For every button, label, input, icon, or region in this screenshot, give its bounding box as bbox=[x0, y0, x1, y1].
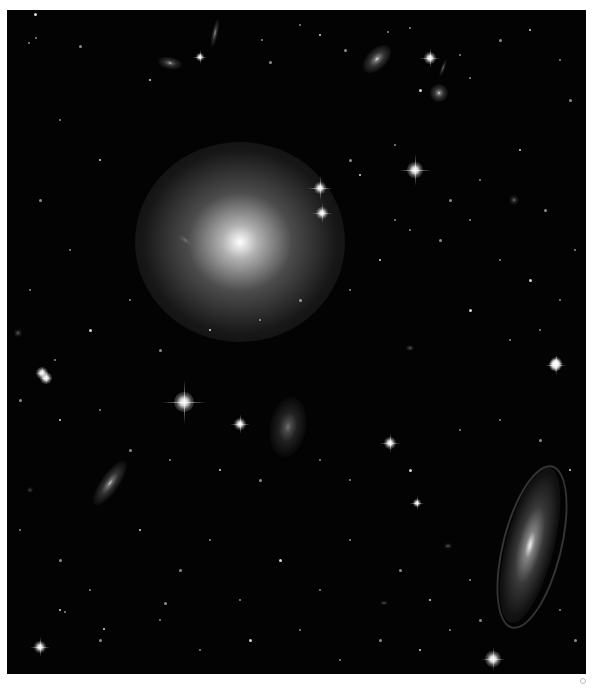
faint-star bbox=[499, 419, 501, 421]
faint-star bbox=[299, 629, 301, 631]
faint-star bbox=[339, 659, 341, 661]
galaxy-irregular-center bbox=[265, 394, 311, 459]
faint-star bbox=[129, 449, 132, 452]
faint-star bbox=[469, 309, 472, 312]
faint-star bbox=[509, 339, 511, 341]
faint-star bbox=[19, 399, 22, 402]
faint-star bbox=[89, 329, 92, 332]
faint-star bbox=[209, 539, 211, 541]
bright-star bbox=[485, 651, 501, 667]
faint-star bbox=[529, 29, 531, 31]
faint-star bbox=[349, 289, 351, 291]
faint-star bbox=[299, 299, 302, 302]
faint-star bbox=[419, 89, 422, 92]
faint-star bbox=[499, 39, 502, 42]
faint-star bbox=[59, 559, 62, 562]
bright-star bbox=[316, 207, 328, 219]
corner-circle-icon bbox=[580, 678, 586, 684]
galaxy-small-galaxy-right bbox=[509, 195, 519, 205]
faint-star bbox=[394, 219, 396, 221]
diffraction-spike bbox=[556, 355, 557, 371]
bright-star bbox=[36, 367, 48, 379]
bright-star bbox=[174, 392, 194, 412]
diffraction-spike bbox=[320, 176, 321, 200]
diffraction-spike bbox=[481, 659, 505, 660]
diffraction-spike bbox=[30, 647, 50, 648]
faint-star bbox=[349, 539, 351, 541]
faint-star bbox=[319, 34, 321, 36]
faint-star bbox=[569, 99, 572, 102]
bright-star bbox=[314, 182, 326, 194]
faint-star bbox=[129, 299, 131, 301]
galaxy-spiral-lower-right bbox=[487, 462, 572, 629]
faint-star bbox=[439, 239, 442, 242]
diffraction-spike bbox=[399, 170, 431, 171]
diffraction-spike bbox=[417, 496, 418, 510]
faint-star bbox=[379, 259, 381, 261]
diffraction-spike bbox=[415, 154, 416, 186]
bright-star bbox=[424, 52, 436, 64]
faint-star bbox=[459, 54, 461, 56]
faint-star bbox=[349, 159, 352, 162]
faint-star bbox=[59, 609, 61, 611]
faint-star bbox=[259, 319, 261, 321]
faint-star bbox=[409, 27, 411, 29]
faint-star bbox=[574, 249, 576, 251]
diffraction-spike bbox=[390, 433, 391, 453]
faint-star bbox=[409, 469, 412, 472]
faint-star bbox=[299, 24, 301, 26]
faint-star bbox=[169, 459, 171, 461]
bright-star bbox=[413, 499, 421, 507]
faint-star bbox=[28, 42, 30, 44]
faint-star bbox=[379, 639, 382, 642]
faint-star bbox=[59, 419, 61, 421]
faint-star bbox=[261, 39, 263, 41]
galaxy-small-galaxy-left-2 bbox=[27, 487, 33, 493]
faint-star bbox=[259, 479, 262, 482]
faint-star bbox=[99, 639, 102, 642]
diffraction-spike bbox=[230, 424, 250, 425]
faint-star bbox=[179, 569, 182, 572]
galaxy-small-galaxy-mid bbox=[177, 233, 194, 247]
faint-star bbox=[19, 529, 21, 531]
faint-star bbox=[429, 599, 431, 601]
diffraction-spike bbox=[200, 50, 201, 64]
faint-star bbox=[479, 179, 481, 181]
bright-star bbox=[234, 418, 246, 430]
diffraction-spike bbox=[240, 414, 241, 434]
faint-star bbox=[394, 144, 396, 146]
faint-star bbox=[99, 409, 101, 411]
diffraction-spike bbox=[42, 367, 43, 379]
faint-star bbox=[35, 37, 37, 39]
faint-star bbox=[519, 149, 521, 151]
faint-star bbox=[54, 359, 56, 361]
faint-star bbox=[574, 639, 577, 642]
bright-star bbox=[550, 357, 562, 369]
diffraction-spike bbox=[36, 373, 48, 374]
bright-star bbox=[196, 53, 204, 61]
deep-field-image bbox=[7, 10, 586, 674]
galaxy-edge-on-lower-left bbox=[88, 457, 133, 510]
faint-star bbox=[39, 199, 42, 202]
faint-star bbox=[569, 469, 571, 471]
diffraction-spike bbox=[410, 503, 424, 504]
diffraction-spike bbox=[547, 365, 563, 366]
spiral-arm bbox=[483, 458, 582, 636]
diffraction-spike bbox=[430, 48, 431, 68]
galaxy-small-galaxy-lower bbox=[444, 543, 452, 549]
faint-star bbox=[34, 13, 37, 16]
diffraction-spike bbox=[308, 188, 332, 189]
faint-star bbox=[279, 559, 282, 562]
faint-star bbox=[459, 429, 461, 431]
bright-star bbox=[40, 372, 52, 384]
bright-star bbox=[407, 162, 423, 178]
bright-star bbox=[549, 359, 561, 371]
faint-star bbox=[419, 649, 421, 651]
faint-star bbox=[539, 329, 541, 331]
faint-star bbox=[544, 209, 547, 212]
diffraction-spike bbox=[193, 57, 207, 58]
diffraction-spike bbox=[548, 363, 564, 364]
diffraction-spike bbox=[546, 365, 566, 366]
diffraction-spike bbox=[46, 372, 47, 384]
galaxy-small-galaxy-right-2 bbox=[406, 345, 414, 351]
